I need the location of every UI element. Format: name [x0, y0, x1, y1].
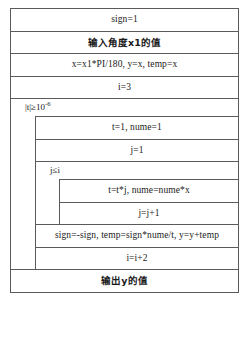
loop-inner-body: t=t*j, nume=nume*x j=j+1	[59, 179, 238, 224]
loop-outer-while: |t|≥10-6 t=1, nume=1 j=1 j≤i t=t*j, nume…	[11, 99, 238, 270]
loop-outer-condition-exponent: -6	[45, 100, 50, 107]
loop-inner-while: j≤i t=t*j, nume=nume*x j=j+1	[36, 162, 238, 225]
ns-flowchart: sign=1 输入角度x1的值 x=x1*PI/180, y=x, temp=x…	[10, 8, 239, 293]
process-block-j-increment: j=j+1	[60, 203, 238, 225]
figure-caption-cropped	[0, 340, 248, 350]
process-block-sign-init: sign=1	[11, 9, 238, 32]
process-block-t-nume-init: t=1, nume=1	[36, 117, 238, 140]
process-block-i-init: i=3	[11, 77, 238, 100]
loop-outer-condition: |t|≥10-6	[11, 99, 238, 116]
loop-inner-condition-text: j≤i	[50, 165, 60, 175]
loop-outer-body: t=1, nume=1 j=1 j≤i t=t*j, nume=nume*x j…	[35, 116, 238, 269]
process-block-i-increment: i=i+2	[36, 248, 238, 270]
process-block-j-init: j=1	[36, 140, 238, 163]
process-block-convert-radians: x=x1*PI/180, y=x, temp=x	[11, 54, 238, 77]
loop-outer-condition-text: |t|≥10	[25, 102, 45, 112]
process-block-output-y: 输出y的值	[11, 270, 238, 292]
process-block-input-angle: 输入角度x1的值	[11, 32, 238, 55]
process-block-factorial-power: t=t*j, nume=nume*x	[60, 180, 238, 203]
loop-inner-condition: j≤i	[36, 162, 238, 179]
process-block-accumulate-term: sign=-sign, temp=sign*nume/t, y=y+temp	[36, 225, 238, 248]
